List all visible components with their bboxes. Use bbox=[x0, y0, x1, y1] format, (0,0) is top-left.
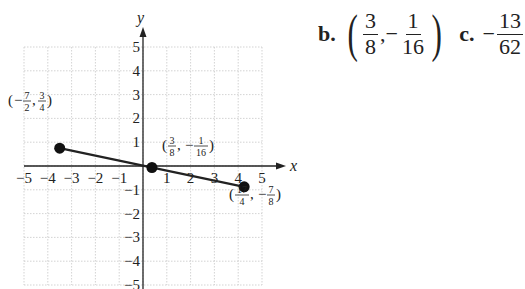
svg-text:3: 3 bbox=[40, 90, 45, 101]
svg-text:1: 1 bbox=[163, 170, 171, 186]
svg-text:1: 1 bbox=[133, 134, 141, 150]
svg-text:,: , bbox=[177, 137, 181, 153]
svg-text:−: − bbox=[14, 92, 22, 108]
svg-text:−: − bbox=[185, 137, 193, 153]
y-axis-arrow-icon bbox=[140, 27, 147, 37]
svg-text:−2: −2 bbox=[87, 170, 103, 186]
fraction-x: 3 8 bbox=[363, 9, 378, 58]
x-axis-arrow-icon bbox=[276, 163, 286, 170]
svg-text:,: , bbox=[250, 186, 254, 202]
svg-text:4: 4 bbox=[133, 63, 141, 79]
svg-text:3: 3 bbox=[133, 87, 141, 103]
svg-text:17: 17 bbox=[237, 184, 247, 195]
svg-text:−1: −1 bbox=[124, 182, 140, 198]
svg-text:2: 2 bbox=[133, 110, 141, 126]
svg-text:5: 5 bbox=[133, 39, 141, 55]
svg-text:3: 3 bbox=[170, 135, 175, 146]
svg-text:−4: −4 bbox=[40, 170, 56, 186]
data-point bbox=[146, 162, 157, 173]
svg-text:y: y bbox=[135, 9, 145, 27]
svg-text:(: ( bbox=[162, 137, 167, 154]
axes bbox=[24, 27, 286, 289]
svg-text:8: 8 bbox=[269, 196, 274, 207]
svg-text:(: ( bbox=[8, 92, 13, 109]
svg-text:(: ( bbox=[229, 186, 234, 203]
svg-text:7: 7 bbox=[269, 184, 274, 195]
svg-text:1: 1 bbox=[199, 135, 204, 146]
svg-text:−5: −5 bbox=[16, 170, 32, 186]
svg-text:): ) bbox=[209, 137, 214, 154]
open-paren: ( bbox=[347, 8, 357, 60]
svg-text:x: x bbox=[289, 157, 297, 174]
answer-c-label: c. bbox=[459, 21, 474, 47]
svg-text:4: 4 bbox=[40, 102, 45, 113]
svg-text:−5: −5 bbox=[124, 277, 140, 289]
svg-text:4: 4 bbox=[240, 196, 245, 207]
data-point bbox=[54, 143, 65, 154]
svg-text:7: 7 bbox=[25, 90, 30, 101]
svg-text:2: 2 bbox=[25, 102, 30, 113]
plot-layer bbox=[54, 143, 249, 193]
svg-text:,: , bbox=[32, 92, 36, 108]
answer-b-label: b. bbox=[318, 21, 336, 47]
svg-text:−3: −3 bbox=[124, 229, 140, 245]
svg-text:−2: −2 bbox=[124, 206, 140, 222]
svg-text:16: 16 bbox=[196, 147, 206, 158]
svg-text:3: 3 bbox=[211, 170, 219, 186]
svg-text:): ) bbox=[276, 186, 281, 203]
fraction-c: 13 62 bbox=[497, 9, 523, 58]
svg-text:2: 2 bbox=[187, 170, 195, 186]
svg-text:−4: −4 bbox=[124, 253, 140, 269]
answer-row: b. ( 3 8 , − 1 16 ) c. − 13 62 bbox=[318, 4, 525, 64]
svg-text:−3: −3 bbox=[64, 170, 80, 186]
svg-text:5: 5 bbox=[258, 170, 266, 186]
close-paren: ) bbox=[431, 8, 441, 60]
svg-text:): ) bbox=[47, 92, 52, 109]
svg-text:8: 8 bbox=[170, 147, 175, 158]
fraction-y: 1 16 bbox=[400, 9, 426, 58]
svg-text:−: − bbox=[258, 186, 266, 202]
